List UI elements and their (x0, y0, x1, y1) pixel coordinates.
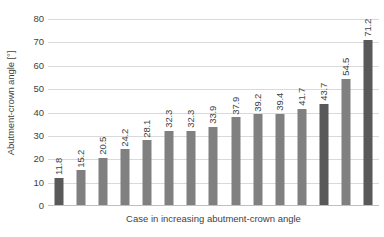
bar-slot: 32.3 (180, 19, 202, 206)
bar[interactable] (121, 149, 130, 206)
bar-slot: 41.7 (291, 19, 313, 206)
bar-value-label: 20.5 (98, 137, 108, 155)
bar-value-label: 39.4 (275, 93, 285, 111)
bar-value-label: 24.2 (120, 129, 130, 147)
bar-value-label: 37.9 (231, 97, 241, 115)
bar-chart: Abutment-crown angle [°] 010203040506070… (0, 0, 384, 237)
bars-group: 11.815.220.524.228.132.332.333.937.939.2… (48, 19, 379, 206)
bar-value-label: 43.7 (319, 83, 329, 101)
y-tick-label: 40 (33, 108, 44, 118)
y-axis-tick-labels: 01020304050607080 (18, 13, 44, 207)
bar-slot: 71.2 (357, 19, 379, 206)
bar[interactable] (253, 114, 262, 206)
bar-value-label: 15.2 (76, 150, 86, 168)
bar[interactable] (275, 114, 284, 206)
y-tick-label: 60 (33, 61, 44, 71)
bar[interactable] (165, 131, 174, 207)
x-axis-title: Case in increasing abutment-crown angle (48, 213, 379, 224)
bar-slot: 11.8 (48, 19, 70, 206)
y-tick-label: 50 (33, 84, 44, 94)
bar-value-label: 41.7 (297, 88, 307, 106)
bar-slot: 43.7 (313, 19, 335, 206)
y-tick-label: 20 (33, 155, 44, 165)
bar[interactable] (187, 131, 196, 207)
bar[interactable] (143, 140, 152, 206)
bar[interactable] (341, 79, 350, 206)
x-axis-line (48, 205, 379, 206)
bar-value-label: 32.3 (187, 110, 197, 128)
bar[interactable] (99, 158, 108, 206)
y-tick-label: 80 (33, 14, 44, 24)
bar[interactable] (209, 127, 218, 206)
bar-slot: 20.5 (92, 19, 114, 206)
y-tick-label: 10 (33, 178, 44, 188)
bar-value-label: 11.8 (54, 158, 64, 175)
bar-slot: 32.3 (158, 19, 180, 206)
bar-slot: 37.9 (225, 19, 247, 206)
bar-value-label: 32.3 (165, 110, 175, 128)
bar-slot: 24.2 (114, 19, 136, 206)
bar-value-label: 33.9 (209, 106, 219, 124)
y-axis-title: Abutment-crown angle [°] (2, 0, 18, 206)
bar-value-label: 28.1 (143, 120, 153, 138)
bar[interactable] (55, 178, 64, 206)
bar[interactable] (363, 40, 372, 206)
bar-value-label: 54.5 (341, 58, 351, 76)
bar[interactable] (77, 170, 86, 206)
bar-slot: 15.2 (70, 19, 92, 206)
bar-slot: 28.1 (136, 19, 158, 206)
bar-slot: 39.4 (269, 19, 291, 206)
bar[interactable] (297, 109, 306, 206)
bar-slot: 39.2 (247, 19, 269, 206)
bar-slot: 33.9 (202, 19, 224, 206)
y-tick-label: 30 (33, 131, 44, 141)
y-tick-label: 0 (39, 201, 44, 211)
plot-area: 11.815.220.524.228.132.332.333.937.939.2… (48, 19, 379, 206)
bar-value-label: 39.2 (253, 94, 263, 112)
bar[interactable] (319, 104, 328, 206)
bar-slot: 54.5 (335, 19, 357, 206)
bar[interactable] (231, 117, 240, 206)
y-tick-label: 70 (33, 38, 44, 48)
bar-value-label: 71.2 (363, 19, 373, 37)
